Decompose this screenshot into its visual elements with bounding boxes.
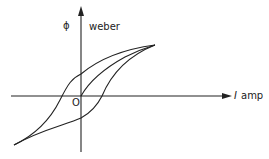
x-axis-symbol: I	[234, 91, 237, 101]
y-axis-unit: weber	[89, 22, 120, 32]
hysteresis-lower-branch	[14, 45, 155, 145]
hysteresis-diagram: ϕ weber O I amp	[0, 0, 269, 159]
hysteresis-upper-branch	[14, 45, 155, 145]
diagram-canvas	[0, 0, 269, 159]
y-axis-arrow-icon	[78, 6, 84, 16]
x-axis-arrow-icon	[222, 93, 232, 99]
x-axis-unit: amp	[241, 91, 263, 101]
origin-label: O	[72, 98, 80, 108]
y-axis-symbol: ϕ	[63, 21, 70, 31]
